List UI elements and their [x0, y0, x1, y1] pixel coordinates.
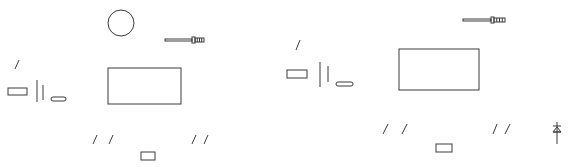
probe-shaft [463, 19, 491, 21]
pill-shape [51, 97, 66, 101]
bottom-rectangle [436, 144, 452, 152]
slash-mark [402, 124, 407, 134]
technical-drawing [0, 0, 577, 167]
probe-icon [165, 37, 204, 43]
slash-mark [109, 135, 113, 144]
probe-shaft [165, 39, 192, 41]
slash-mark [15, 60, 19, 69]
diode-icon [553, 122, 561, 144]
slash-mark [192, 135, 196, 144]
slash-mark [296, 40, 300, 50]
panel-left [8, 10, 208, 160]
bottom-rectangle [141, 152, 155, 160]
small-rectangle [287, 70, 307, 78]
slash-mark [204, 135, 208, 144]
small-rectangle [8, 88, 27, 95]
probe-icon [463, 17, 505, 23]
slash-mark [505, 124, 510, 134]
drawing-svg [0, 0, 577, 167]
circle-shape [108, 10, 134, 36]
slash-mark [493, 124, 497, 134]
main-rectangle [399, 49, 479, 90]
slash-mark [383, 124, 388, 134]
panel-right [287, 17, 561, 152]
slash-mark [93, 135, 97, 144]
pill-shape [336, 82, 353, 86]
main-rectangle [108, 68, 181, 104]
